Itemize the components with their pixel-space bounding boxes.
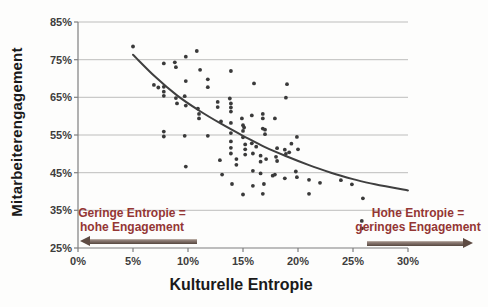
scatter-point: [156, 86, 160, 90]
y-tick-label: 25%: [32, 242, 72, 254]
scatter-point: [183, 94, 187, 98]
scatter-point: [206, 85, 210, 89]
scatter-point: [229, 140, 233, 144]
scatter-point: [296, 147, 300, 151]
scatter-point: [198, 68, 202, 72]
left-arrow-icon: [80, 236, 197, 246]
scatter-point: [295, 135, 299, 139]
scatter-point: [264, 157, 268, 161]
scatter-point: [216, 105, 220, 109]
annotation-high-entropy-line1: Hohe Entropie =: [355, 207, 480, 221]
scatter-point: [243, 147, 247, 151]
scatter-point: [184, 165, 188, 169]
scatter-point: [251, 184, 255, 188]
scatter-point: [261, 112, 265, 116]
scatter-point: [251, 152, 255, 156]
scatter-point: [283, 176, 287, 180]
x-tick-label: 30%: [397, 255, 419, 267]
scatter-point: [216, 100, 220, 104]
scatter-point: [175, 102, 179, 106]
scatter-point: [218, 158, 222, 162]
scatter-point: [229, 69, 233, 73]
scatter-point: [162, 135, 166, 139]
scatter-point: [229, 110, 233, 114]
annotation-low-entropy: Geringe Entropie = hohe Engagement: [78, 207, 186, 234]
scatter-point: [261, 117, 265, 121]
scatter-point: [197, 117, 201, 121]
scatter-point: [261, 192, 265, 196]
right-arrow-head: [463, 238, 473, 248]
scatter-point: [263, 132, 267, 136]
scatter-point: [229, 102, 233, 106]
scatter-point: [173, 60, 177, 64]
scatter-point: [350, 182, 354, 186]
x-tick-label: 10%: [177, 255, 199, 267]
scatter-point: [229, 106, 233, 110]
scatter-point: [252, 82, 256, 86]
scatter-point: [273, 117, 277, 121]
annotation-high-entropy: Hohe Entropie = geringes Engagement: [355, 207, 480, 234]
scatter-point: [235, 163, 239, 167]
scatter-point: [228, 97, 232, 101]
right-arrow-shaft: [367, 241, 464, 246]
scatter-point: [162, 90, 166, 94]
scatter-point: [284, 96, 288, 100]
scatter-point: [287, 150, 291, 154]
y-tick-label: 35%: [32, 204, 72, 216]
scatter-point: [283, 148, 287, 152]
scatter-point: [152, 83, 156, 87]
scatter-point: [295, 175, 299, 179]
scatter-point: [230, 182, 234, 186]
scatter-point: [275, 159, 279, 163]
scatter-point: [206, 134, 210, 138]
x-tick-label: 20%: [287, 255, 309, 267]
scatter-point: [294, 170, 298, 174]
scatter-point: [339, 178, 343, 182]
scatter-point: [307, 192, 311, 196]
left-arrow-shaft: [89, 239, 197, 244]
x-tick-label: 5%: [125, 255, 141, 267]
scatter-point: [318, 181, 322, 185]
trend-line: [133, 55, 408, 191]
scatter-point: [262, 182, 266, 186]
scatter-point: [229, 121, 233, 125]
x-axis-title: Kulturelle Entropie: [169, 276, 312, 294]
scatter-point: [229, 131, 233, 135]
scatter-point: [206, 77, 210, 81]
annotation-high-entropy-line2: geringes Engagement: [355, 221, 480, 235]
scatter-point: [307, 178, 311, 182]
y-tick-label: 65%: [32, 91, 72, 103]
scatter-point: [290, 142, 294, 146]
scatter-point: [243, 143, 247, 147]
scatter-point: [285, 82, 289, 86]
scatter-point: [220, 173, 224, 177]
y-tick-label: 75%: [32, 54, 72, 66]
scatter-point: [274, 155, 278, 159]
scatter-point: [235, 157, 239, 161]
x-tick-label: 15%: [232, 255, 254, 267]
scatter-point: [174, 65, 178, 69]
x-tick-label: 25%: [342, 255, 364, 267]
scatter-point: [259, 154, 263, 158]
scatter-point: [259, 160, 263, 164]
left-arrow-head: [80, 236, 90, 246]
scatter-point: [254, 145, 258, 149]
scatter-point: [184, 55, 188, 59]
scatter-point: [275, 146, 279, 150]
scatter-point: [183, 134, 187, 138]
y-tick-label: 85%: [32, 16, 72, 28]
y-axis-title: Mitarbeiterengagement: [8, 47, 25, 216]
scatter-point: [273, 173, 277, 177]
scatter-point: [229, 152, 233, 156]
scatter-point: [361, 196, 365, 200]
scatter-point: [229, 146, 233, 150]
scatter-point: [259, 172, 263, 176]
scatter-point: [184, 79, 188, 83]
chart: Mitarbeiterengagement Kulturelle Entropi…: [0, 0, 488, 307]
scatter-point: [251, 169, 255, 173]
scatter-point: [195, 49, 199, 53]
scatter-point: [250, 114, 254, 118]
scatter-point: [241, 129, 245, 133]
y-tick-label: 45%: [32, 167, 72, 179]
y-tick-label: 55%: [32, 129, 72, 141]
